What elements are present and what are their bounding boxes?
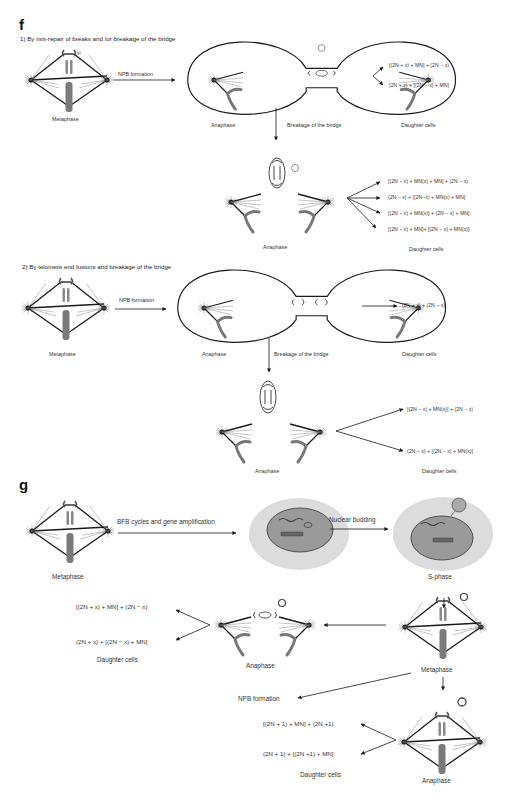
section2-title: 2) By telomere end fusions and breakage … [22,263,171,270]
f2-bridge-label: Breakage of the bridge [274,351,329,357]
f1-outcome-arrows [373,67,383,85]
f2-outcome: (2N + x) + (2N − x) [402,302,445,308]
g-outcome-2: (2N + x) + [(2N − x) + MN] [76,638,148,645]
chromosome-tag: x² [77,51,81,56]
f1-metaphase-label: Metaphase [52,116,79,122]
f1-bridge-label: Breakage of the bridge [287,122,342,128]
section1-title: 1) By mis-repair of breaks and /or break… [20,35,175,42]
f1-sub-anaphase [225,158,334,232]
g-metaphase2 [399,594,487,660]
f1-sub-outcome-4: [(2N − x) + MN]+ [(2N − x) + MN(x)] [388,226,469,232]
f2-sub-daughter-label: Daughter cells [422,468,456,474]
panel-letter-f: f [19,16,24,33]
f2-daughter-label: Daughter cells [402,351,436,357]
f2-npb-label: NPB formation [119,297,154,303]
f2-anaphase-label: Anaphase [202,351,226,357]
g-metaphase2-label: Metaphase [421,666,453,673]
g-anaphase2 [398,698,486,774]
g-cell-budding [393,497,493,571]
f1-sub-outcome-1: [(2N − x) + MN(x) + MN] + (2N − x) [388,178,468,184]
g-outcome2-2: (2N + 1) + [(2N +1) + MN] [263,750,334,757]
f2-sub-outcome-1: [(2N − x) + MN(x)] + (2N − x) [407,406,473,412]
f1-sub-outcome-arrows [347,182,380,228]
g-anaphase [215,600,315,656]
g-outcome2-arrows [361,724,396,754]
f1-outcome-1: [(2N + x) + MN] + (2N − x) [389,62,449,68]
g-outcome-arrows [176,610,210,640]
f1-sub-anaphase-label: Anaphase [263,244,287,250]
g-npb-label: NPB formation [238,695,280,702]
g-cell-amplified [249,498,349,570]
f1-daughter-label: Daughter cells [401,122,435,128]
g-outcome2-1: [(2N + 1) + MN] + (2N +1) [263,720,334,727]
f1-metaphase [25,50,113,112]
f1-npb-label: NPB formation [118,71,153,77]
g-anaphase2-label: Anaphase [422,777,451,784]
f2-metaphase-label: Metaphase [49,351,76,357]
f1-anaphase-dumbbell [188,42,456,114]
f1-outcome-2: (2N + x) + [(2N − x) + MN] [389,82,449,88]
g-metaphase-label: Metaphase [52,573,84,580]
f2-metaphase [22,278,110,340]
f2-sub-outcome-2: (2N − x) + [(2N − x) + MN(x)] [407,448,473,454]
f1-anaphase-label: Anaphase [211,122,235,128]
g-budding-label: Nuclear budding [329,516,376,523]
f1-sub-outcome-2: (2N − x) + [(2N−x) + MN(x) + MN] [388,194,465,200]
f2-sub-anaphase [216,381,326,462]
g-metaphase [26,501,114,563]
f2-sub-anaphase-label: Anaphase [255,468,279,474]
g-outcome-1: [(2N + x) + MN] + (2N − x) [76,603,148,610]
panel-letter-g: g [19,476,28,493]
g-sphase-label: S-phase [428,573,452,580]
f2-sub-outcome-arrows [336,409,403,451]
f1-sub-daughter-label: Daughter cells [409,246,443,252]
g-bfb-label: BFB cycles and gene amplification [117,518,215,525]
f1-sub-outcome-3: [(2N − x) + MN(x)] + (2N − x) + MN] [388,210,469,216]
g-anaphase-label: Anaphase [246,662,275,669]
g-npb-arrow [298,673,411,698]
g-daughter2-label: Daughter cells [300,771,341,778]
g-daughter-label: Daughter cells [97,656,138,663]
